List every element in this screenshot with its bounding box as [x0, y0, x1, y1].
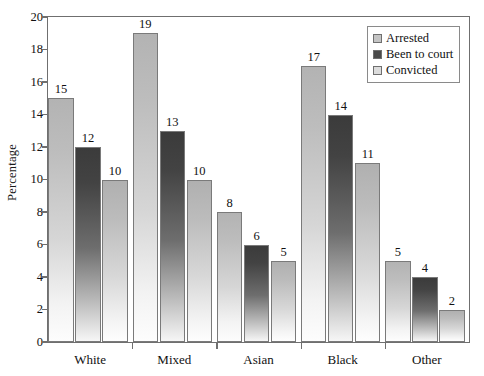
bar: 10 [187, 180, 213, 343]
x-axis-category-label: Black [328, 352, 358, 368]
x-axis-tick [385, 343, 386, 349]
bar: 11 [355, 163, 381, 342]
y-axis-tick-mark [42, 49, 47, 50]
x-axis-tick [132, 343, 133, 349]
y-axis-title: Percentage [0, 0, 24, 344]
bar-value-label: 4 [422, 261, 428, 276]
bar-group: 865 [217, 17, 297, 342]
legend-item: Convicted [373, 62, 453, 78]
bar-value-label: 11 [362, 147, 374, 162]
legend-swatch-icon [373, 66, 382, 75]
bar: 15 [48, 98, 74, 342]
bar-value-label: 10 [109, 164, 122, 179]
bar: 12 [75, 147, 101, 342]
bar: 10 [102, 180, 128, 343]
bar-value-label: 13 [166, 115, 179, 130]
y-axis-tick-mark [42, 211, 47, 212]
legend: ArrestedBeen to courtConvicted [367, 26, 460, 83]
bar-value-label: 19 [139, 17, 152, 32]
bar: 17 [301, 66, 327, 342]
y-axis-tick-mark [42, 179, 47, 180]
bar-value-label: 8 [226, 196, 232, 211]
x-axis-category-label: White [74, 352, 106, 368]
bar-group: 191310 [133, 17, 213, 342]
legend-item: Been to court [373, 46, 453, 62]
bar-value-label: 6 [253, 229, 259, 244]
x-axis-tick [216, 343, 217, 349]
y-axis-tick-mark [42, 309, 47, 310]
y-axis-tick-mark [42, 81, 47, 82]
bar: 8 [217, 212, 243, 342]
y-axis-title-text: Percentage [5, 144, 20, 201]
y-axis-tick-mark [42, 276, 47, 277]
y-axis-tick-mark [42, 146, 47, 147]
bar: 4 [412, 277, 438, 342]
bar-value-label: 14 [334, 99, 347, 114]
x-axis-category-label: Other [412, 352, 442, 368]
bar: 5 [385, 261, 411, 342]
x-axis-category-label: Asian [243, 352, 273, 368]
bar: 2 [439, 310, 465, 343]
bar-value-label: 15 [55, 82, 68, 97]
bar: 5 [271, 261, 297, 342]
bar: 13 [160, 131, 186, 342]
y-axis-tick-mark [42, 341, 47, 342]
bar-value-label: 5 [395, 245, 401, 260]
y-axis-tick-mark [42, 244, 47, 245]
legend-item-label: Been to court [386, 47, 453, 62]
bar-value-label: 10 [193, 164, 206, 179]
bar: 19 [133, 33, 159, 342]
bar-value-label: 12 [82, 131, 95, 146]
bar: 6 [244, 245, 270, 343]
legend-item-label: Convicted [386, 63, 437, 78]
y-axis-tick-mark [42, 114, 47, 115]
bar-group: 151210 [48, 17, 128, 342]
bar-value-label: 2 [449, 294, 455, 309]
legend-item: Arrested [373, 30, 453, 46]
bar-value-label: 5 [280, 245, 286, 260]
x-axis-tick [301, 343, 302, 349]
y-axis-tick-mark [42, 16, 47, 17]
bar-value-label: 17 [307, 50, 320, 65]
legend-swatch-icon [373, 34, 382, 43]
bar: 14 [328, 115, 354, 343]
legend-swatch-icon [373, 50, 382, 59]
bar-chart: Percentage 02468101214161820 15121019131… [0, 0, 484, 376]
legend-item-label: Arrested [386, 31, 429, 46]
x-axis-category-label: Mixed [157, 352, 191, 368]
